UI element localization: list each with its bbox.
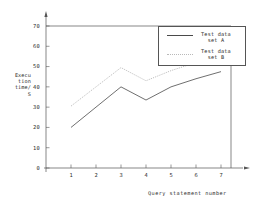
legend-label-series-a: Test dataset A	[193, 31, 239, 44]
x-tick-label: 4	[141, 172, 151, 178]
series-layer	[71, 55, 221, 127]
x-tick-label: 7	[216, 172, 226, 178]
x-tick-label: 6	[191, 172, 201, 178]
y-tick-label: 60	[24, 43, 40, 49]
legend: Test dataset A Test dataset B	[158, 26, 246, 66]
legend-swatch-series-a	[167, 35, 193, 36]
y-axis-title-line: S	[1, 91, 31, 97]
x-axis-title: Query statement number	[148, 190, 227, 196]
y-tick-label: 20	[24, 124, 40, 130]
y-tick-label: 0	[24, 165, 40, 171]
chart-figure: Executiontime/S Query statement number 0…	[0, 0, 265, 210]
series-line-a	[71, 72, 221, 128]
legend-label-line: set A	[193, 37, 239, 43]
y-tick-label: 70	[24, 23, 40, 29]
legend-swatch-series-b	[167, 54, 193, 55]
y-tick-label: 50	[24, 63, 40, 69]
y-tick-label: 10	[24, 145, 40, 151]
legend-label-line: set B	[193, 54, 239, 60]
x-tick-label: 3	[116, 172, 126, 178]
y-tick-label: 40	[24, 84, 40, 90]
y-tick-label: 30	[24, 104, 40, 110]
x-tick-label: 5	[166, 172, 176, 178]
x-tick-label: 1	[66, 172, 76, 178]
x-tick-label: 2	[91, 172, 101, 178]
legend-label-series-b: Test dataset B	[193, 48, 239, 61]
